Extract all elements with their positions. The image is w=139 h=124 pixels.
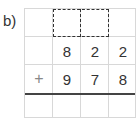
- digit-cell: 2: [81, 37, 109, 65]
- addition-grid: 8 2 2 + 9 7 8: [24, 8, 136, 118]
- carry-cell[interactable]: [53, 9, 81, 37]
- digit-cell: 9: [53, 65, 81, 93]
- digit-cell: 8: [53, 37, 81, 65]
- answer-cell[interactable]: [53, 93, 81, 121]
- digit-cell: 7: [81, 65, 109, 93]
- answer-cell[interactable]: [109, 93, 137, 121]
- digit-cell: 8: [109, 65, 137, 93]
- problem-label: b): [3, 12, 16, 29]
- cell: [25, 37, 53, 65]
- carry-cell[interactable]: [81, 9, 109, 37]
- answer-cell[interactable]: [81, 93, 109, 121]
- plus-sign: +: [25, 65, 53, 93]
- answer-cell[interactable]: [25, 93, 53, 121]
- cell: [25, 9, 53, 37]
- digit-cell: 2: [109, 37, 137, 65]
- cell: [109, 9, 137, 37]
